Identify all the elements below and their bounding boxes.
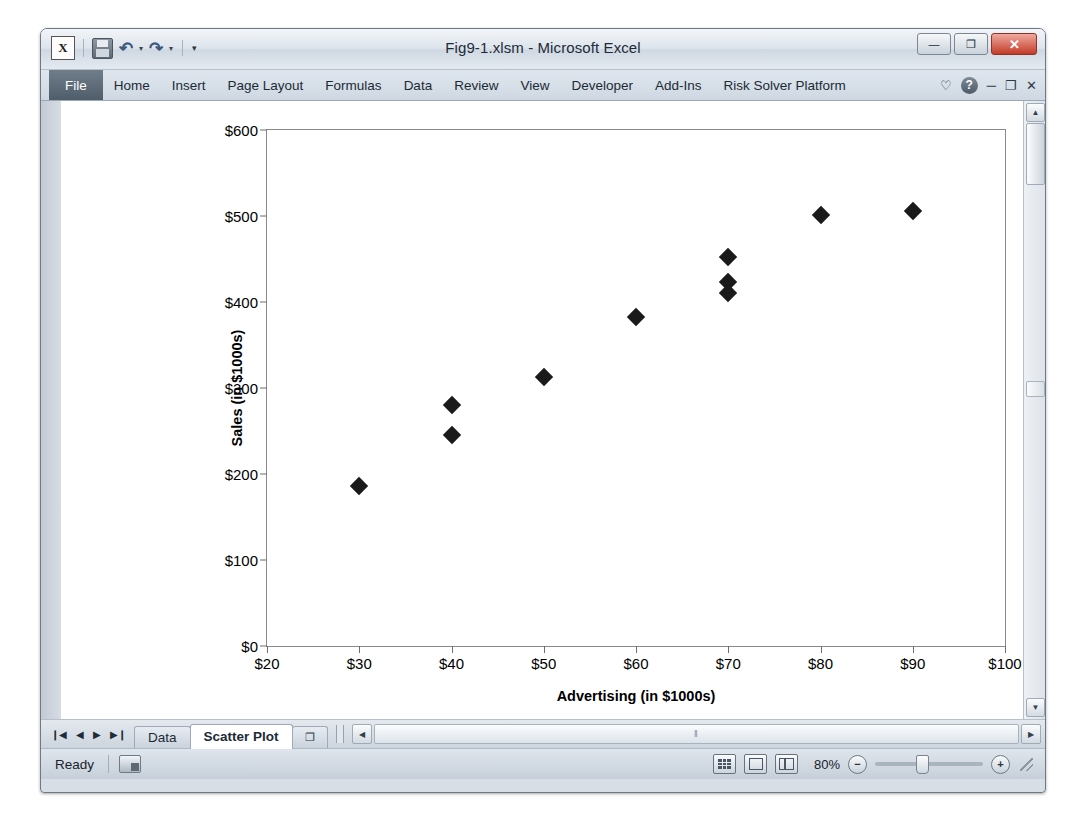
x-axis-tick-label: $40 bbox=[439, 655, 464, 672]
scatter-point[interactable] bbox=[719, 248, 737, 266]
tab-view[interactable]: View bbox=[509, 70, 560, 100]
scatter-point[interactable] bbox=[811, 206, 829, 224]
excel-window: X ↶ ▾ ↷ ▾ ▾ Fig9-1.xlsm - Microsoft Exce… bbox=[40, 28, 1046, 793]
y-axis-tick-label: $0 bbox=[241, 638, 258, 655]
zoom-level-label: 80% bbox=[806, 757, 840, 772]
macro-record-icon[interactable] bbox=[119, 755, 141, 773]
scatter-point[interactable] bbox=[350, 477, 368, 495]
tab-formulas[interactable]: Formulas bbox=[314, 70, 392, 100]
horizontal-scroll-track[interactable]: ‖ bbox=[374, 724, 1019, 744]
sheet-tab-bar: ❙◀ ◀ ▶ ▶❙ Data Scatter Plot ❐ ◀ ‖ ▶ bbox=[41, 720, 1045, 749]
scatter-point[interactable] bbox=[627, 307, 645, 325]
y-axis-tick-mark bbox=[260, 388, 267, 389]
split-handle[interactable] bbox=[1026, 381, 1045, 397]
x-axis-tick-mark bbox=[544, 646, 545, 653]
scatter-chart[interactable]: Sales (in $1000s) Advertising (in $1000s… bbox=[133, 115, 958, 695]
x-axis-tick-label: $20 bbox=[254, 655, 279, 672]
x-axis-tick-mark bbox=[452, 646, 453, 653]
title-bar: X ↶ ▾ ↷ ▾ ▾ Fig9-1.xlsm - Microsoft Exce… bbox=[41, 29, 1045, 70]
status-bar: Ready 80% − + bbox=[41, 749, 1045, 779]
heart-icon[interactable]: ♡ bbox=[940, 78, 952, 93]
x-axis-tick-label: $100 bbox=[988, 655, 1021, 672]
tab-data[interactable]: Data bbox=[393, 70, 444, 100]
restore-button[interactable]: ❐ bbox=[954, 33, 988, 55]
close-window-icon[interactable]: ✕ bbox=[1026, 78, 1037, 93]
normal-view-button[interactable] bbox=[713, 754, 736, 774]
x-axis-tick-label: $50 bbox=[531, 655, 556, 672]
y-axis-tick-mark bbox=[260, 216, 267, 217]
y-axis-tick-mark bbox=[260, 474, 267, 475]
y-axis-tick-mark bbox=[260, 646, 267, 647]
x-axis-tick-label: $90 bbox=[900, 655, 925, 672]
status-divider bbox=[108, 755, 109, 773]
sheet-tab-scatter-plot[interactable]: Scatter Plot bbox=[190, 724, 293, 749]
y-axis-tick-label: $100 bbox=[225, 552, 258, 569]
page-layout-view-button[interactable] bbox=[744, 754, 767, 774]
tab-insert[interactable]: Insert bbox=[161, 70, 217, 100]
scatter-point[interactable] bbox=[904, 202, 922, 220]
tab-page-layout[interactable]: Page Layout bbox=[217, 70, 315, 100]
sheet-tab-data[interactable]: Data bbox=[134, 726, 191, 748]
vertical-scrollbar[interactable]: ▲ ▼ bbox=[1023, 101, 1045, 719]
insert-worksheet-icon[interactable]: ❐ bbox=[292, 726, 328, 748]
x-axis-title: Advertising (in $1000s) bbox=[267, 688, 1005, 704]
scroll-right-button[interactable]: ▶ bbox=[1021, 724, 1041, 744]
scatter-point[interactable] bbox=[442, 396, 460, 414]
scroll-down-button[interactable]: ▼ bbox=[1026, 698, 1045, 717]
y-axis-tick-label: $300 bbox=[225, 380, 258, 397]
x-axis-tick-mark bbox=[728, 646, 729, 653]
page-icon bbox=[749, 758, 763, 770]
next-sheet-button[interactable]: ▶ bbox=[93, 729, 101, 740]
tab-file[interactable]: File bbox=[49, 70, 103, 100]
y-axis-tick-mark bbox=[260, 130, 267, 131]
zoom-slider[interactable] bbox=[875, 762, 983, 766]
tab-developer[interactable]: Developer bbox=[560, 70, 644, 100]
x-axis-tick-label: $70 bbox=[716, 655, 741, 672]
prev-sheet-button[interactable]: ◀ bbox=[76, 729, 84, 740]
worksheet-area: Sales (in $1000s) Advertising (in $1000s… bbox=[41, 101, 1045, 720]
vertical-scroll-thumb[interactable] bbox=[1026, 123, 1045, 185]
x-axis-tick-mark bbox=[913, 646, 914, 653]
last-sheet-button[interactable]: ▶❙ bbox=[110, 729, 126, 740]
horizontal-scroll-thumb[interactable]: ‖ bbox=[375, 725, 1018, 743]
close-button[interactable]: ✕ bbox=[991, 33, 1037, 55]
scroll-left-button[interactable]: ◀ bbox=[352, 724, 372, 744]
ribbon-tab-bar: File Home Insert Page Layout Formulas Da… bbox=[41, 70, 1045, 101]
x-axis-tick-label: $80 bbox=[808, 655, 833, 672]
x-axis-tick-label: $60 bbox=[623, 655, 648, 672]
status-text: Ready bbox=[41, 757, 108, 772]
minimize-button[interactable]: — bbox=[917, 33, 951, 55]
scatter-point[interactable] bbox=[442, 426, 460, 444]
tab-review[interactable]: Review bbox=[443, 70, 509, 100]
ribbon-tabs: File Home Insert Page Layout Formulas Da… bbox=[49, 70, 857, 100]
window-title: Fig9-1.xlsm - Microsoft Excel bbox=[41, 39, 1045, 56]
zoom-in-button[interactable]: + bbox=[991, 755, 1010, 774]
sheet-nav-buttons: ❙◀ ◀ ▶ ▶❙ bbox=[41, 729, 134, 740]
tab-add-ins[interactable]: Add-Ins bbox=[644, 70, 713, 100]
page-break-preview-button[interactable] bbox=[775, 754, 798, 774]
zoom-out-button[interactable]: − bbox=[848, 755, 867, 774]
scatter-point[interactable] bbox=[535, 368, 553, 386]
tab-home[interactable]: Home bbox=[103, 70, 161, 100]
tab-split-handle[interactable] bbox=[336, 725, 344, 743]
y-axis-tick-label: $600 bbox=[225, 122, 258, 139]
ribbon-right-controls: ♡ ? ─ ❐ ✕ bbox=[940, 70, 1037, 100]
minimize-ribbon-icon[interactable]: ─ bbox=[987, 78, 996, 93]
chart-plot-area[interactable]: Sales (in $1000s) Advertising (in $1000s… bbox=[266, 129, 1006, 647]
y-axis-tick-mark bbox=[260, 302, 267, 303]
x-axis-tick-label: $30 bbox=[347, 655, 372, 672]
status-right-controls: 80% − + bbox=[713, 754, 1045, 774]
zoom-slider-thumb[interactable] bbox=[916, 755, 929, 774]
sheet-canvas[interactable]: Sales (in $1000s) Advertising (in $1000s… bbox=[61, 101, 1024, 719]
x-axis-tick-mark bbox=[267, 646, 268, 653]
scatter-point[interactable] bbox=[719, 283, 737, 301]
scroll-up-button[interactable]: ▲ bbox=[1026, 103, 1045, 122]
tab-risk-solver-platform[interactable]: Risk Solver Platform bbox=[713, 70, 857, 100]
help-icon[interactable]: ? bbox=[961, 77, 978, 94]
restore-window-icon[interactable]: ❐ bbox=[1005, 78, 1017, 93]
window-resize-grip[interactable] bbox=[1020, 758, 1033, 771]
page-break-icon bbox=[779, 758, 794, 770]
first-sheet-button[interactable]: ❙◀ bbox=[51, 729, 67, 740]
left-gutter bbox=[41, 101, 62, 719]
horizontal-scrollbar[interactable]: ◀ ‖ ▶ bbox=[352, 725, 1041, 743]
